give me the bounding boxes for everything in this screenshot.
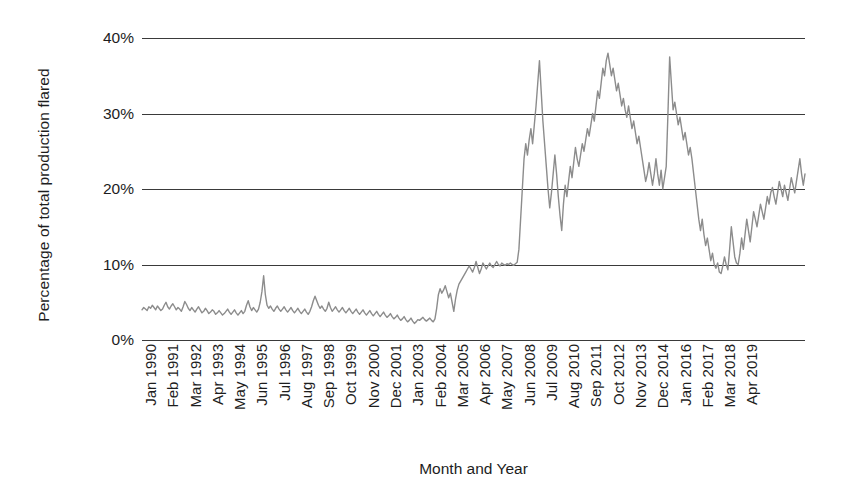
- series-polyline: [142, 53, 805, 323]
- chart-figure: Percentage of total production flared 0%…: [0, 0, 847, 497]
- x-tick-label: Aug 1997: [298, 344, 315, 452]
- y-axis-tick-labels: 0%10%20%30%40%: [58, 0, 134, 497]
- x-tick-label: Sep 1998: [320, 344, 337, 452]
- x-tick-label: Nov 2000: [365, 344, 382, 452]
- plot-area: [142, 38, 805, 340]
- x-tick-label: May 2007: [498, 344, 515, 452]
- x-tick-label: Jan 2003: [409, 344, 426, 452]
- x-tick-label: Oct 1999: [342, 344, 359, 452]
- x-tick-label: Mar 2005: [454, 344, 471, 452]
- y-tick-label: 40%: [58, 29, 134, 47]
- x-tick-label: Dec 2001: [387, 344, 404, 452]
- x-tick-label: Nov 2013: [632, 344, 649, 452]
- x-tick-label: Jul 1996: [276, 344, 293, 452]
- x-tick-label: Sep 2011: [587, 344, 604, 452]
- x-tick-label: Apr 1993: [209, 344, 226, 452]
- x-tick-label: May 1994: [231, 344, 248, 452]
- gridline-0pct: [142, 340, 805, 341]
- x-tick-label: Mar 2018: [721, 344, 738, 452]
- x-tick-label: Jan 1990: [142, 344, 159, 452]
- y-tick-label: 20%: [58, 180, 134, 198]
- x-tick-label: Jun 1995: [253, 344, 270, 452]
- x-tick-label: Jan 2016: [677, 344, 694, 452]
- x-axis-title: Month and Year: [142, 460, 805, 478]
- x-tick-label: Aug 2010: [565, 344, 582, 452]
- data-series-line: [142, 38, 805, 340]
- x-tick-label: Apr 2006: [476, 344, 493, 452]
- x-tick-label: Feb 2017: [699, 344, 716, 452]
- x-tick-label: Oct 2012: [610, 344, 627, 452]
- x-tick-label: Feb 2004: [432, 344, 449, 452]
- y-tick-label: 30%: [58, 105, 134, 123]
- y-tick-label: 10%: [58, 256, 134, 274]
- x-axis-tick-labels: Jan 1990Feb 1991Mar 1992Apr 1993May 1994…: [142, 344, 805, 452]
- x-tick-label: Dec 2014: [654, 344, 671, 452]
- x-tick-label: Jun 2008: [521, 344, 538, 452]
- x-tick-label: Feb 1991: [164, 344, 181, 452]
- y-tick-label: 0%: [58, 331, 134, 349]
- x-tick-label: Mar 1992: [187, 344, 204, 452]
- x-tick-label: Apr 2019: [743, 344, 760, 452]
- x-tick-label: Jul 2009: [543, 344, 560, 452]
